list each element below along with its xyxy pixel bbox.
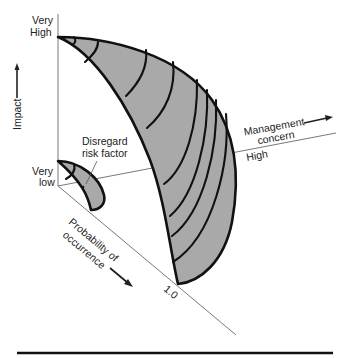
disregard-label-line1: Disregard	[82, 135, 128, 147]
management-concern-label-group: Management concern	[243, 115, 307, 148]
very-low-label-line2: low	[39, 176, 55, 188]
impact-axis-label-group: Impact	[11, 63, 23, 130]
probability-label-group: Probability of occurrence	[61, 215, 121, 271]
management-concern-arrow-right-icon	[325, 115, 333, 121]
impact-axis-label: Impact	[11, 98, 23, 130]
very-high-label-line1: Very	[32, 14, 54, 26]
impact-arrow-up-icon	[15, 63, 20, 70]
small-surface-dot	[82, 186, 85, 189]
probability-arrow-shaft	[110, 268, 128, 283]
disregard-label-line2: risk factor	[82, 147, 128, 159]
management-concern-arrow-shaft	[304, 118, 327, 123]
disregard-risk-surface	[58, 161, 104, 210]
very-high-label-line2: High	[30, 26, 52, 38]
management-concern-high-label: High	[245, 147, 269, 163]
risk-surface-diagram: Impact Very High Very low Disregard risk…	[0, 0, 342, 358]
